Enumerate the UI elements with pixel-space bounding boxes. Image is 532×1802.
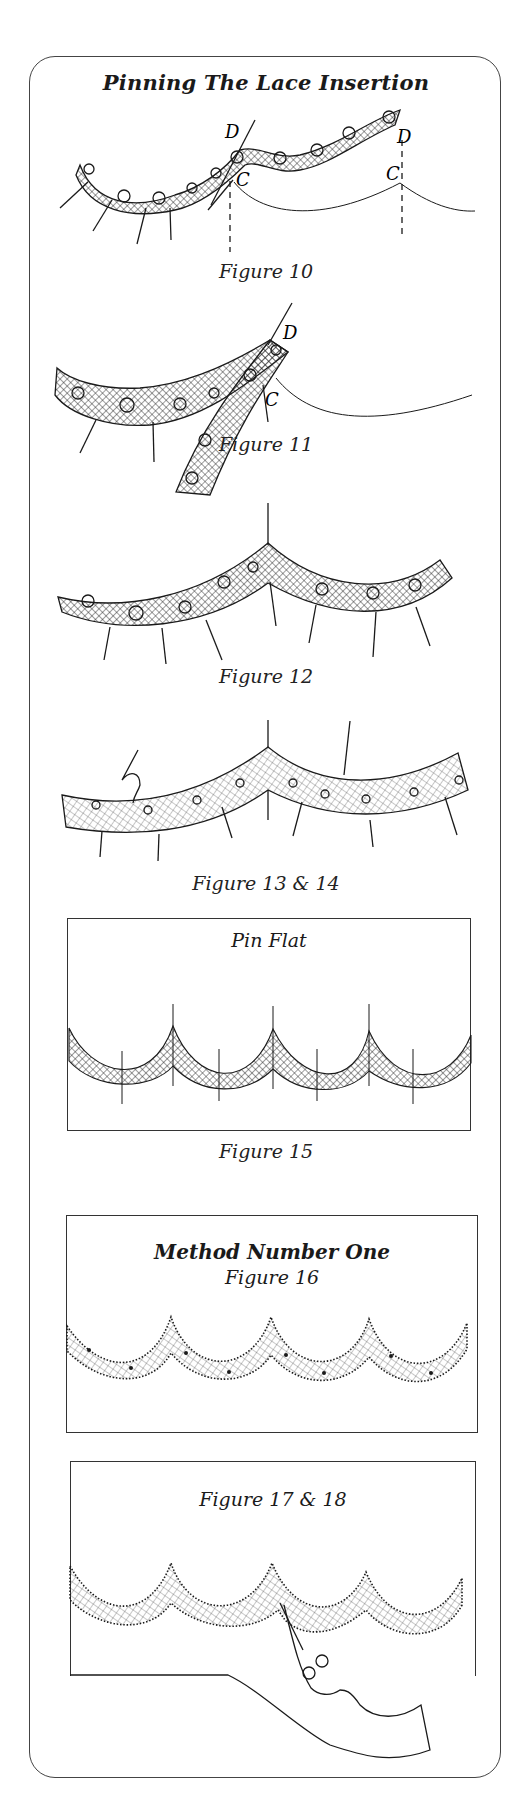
figure-17-18-illustration bbox=[0, 0, 532, 1802]
